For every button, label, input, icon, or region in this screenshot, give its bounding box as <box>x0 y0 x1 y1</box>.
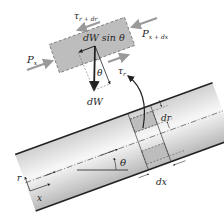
pipe-flow-diagram: θ dr dx r x τr + dr Px + dx Px τr dW sin… <box>0 0 224 221</box>
shear-bottom-label: τr <box>118 66 127 77</box>
dx-label: dx <box>156 177 167 187</box>
pressure-right-label: Px + dx <box>141 28 169 40</box>
shear-bottom-arrow <box>108 55 128 62</box>
element-angle-label: θ <box>97 68 103 78</box>
dr-label: dr <box>161 113 172 123</box>
axis-r-label: r <box>17 173 22 183</box>
shear-top-label: τr + dr <box>74 11 99 22</box>
axis-x-label: x <box>37 193 42 203</box>
weight-component-label: dW sin θ <box>83 32 125 43</box>
weight-label: dW <box>87 96 104 107</box>
pipe <box>14 81 224 215</box>
pressure-right-arrow <box>132 18 157 27</box>
diagram-svg: θ dr dx r x τr + dr Px + dx Px τr dW sin… <box>0 0 224 221</box>
pipe-angle-label: θ <box>120 157 126 168</box>
pressure-left-label: Px <box>26 54 38 66</box>
